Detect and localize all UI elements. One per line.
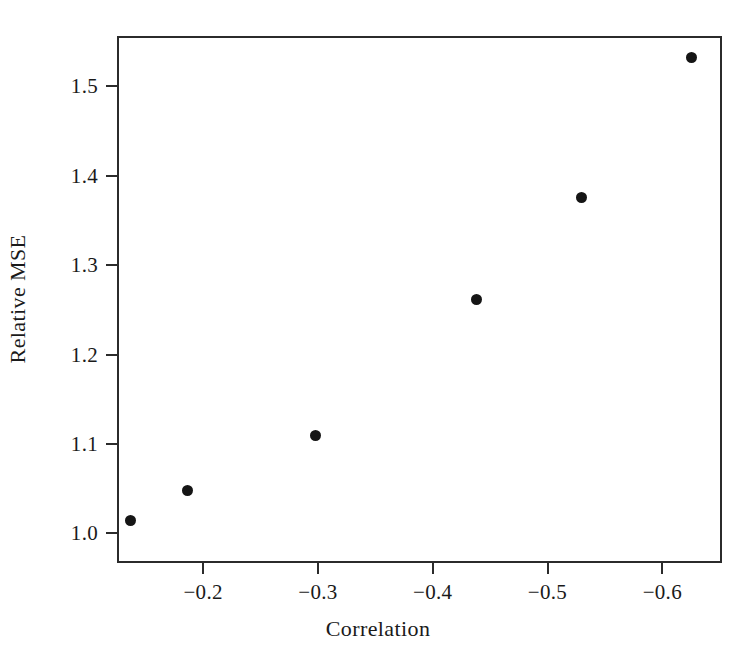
y-axis-title: Relative MSE xyxy=(5,235,31,364)
y-tick-label: 1.5 xyxy=(71,74,98,99)
scatter-plot-figure: −0.2−0.3−0.4−0.5−0.6 1.01.11.21.31.41.5 … xyxy=(0,0,756,671)
y-tick-label: 1.4 xyxy=(71,163,98,188)
x-tick-label: −0.2 xyxy=(183,580,222,605)
y-tick-label: 1.0 xyxy=(71,521,98,546)
plot-area-frame xyxy=(117,36,722,563)
y-tick-label: 1.2 xyxy=(71,342,98,367)
x-tick-label: −0.3 xyxy=(298,580,337,605)
y-tick xyxy=(106,532,117,534)
x-tick xyxy=(202,563,204,574)
y-tick xyxy=(106,85,117,87)
x-tick-label: −0.5 xyxy=(528,580,567,605)
y-tick xyxy=(106,354,117,356)
y-tick xyxy=(106,443,117,445)
y-tick xyxy=(106,175,117,177)
y-tick-label: 1.3 xyxy=(71,253,98,278)
x-tick-label: −0.4 xyxy=(413,580,452,605)
x-tick xyxy=(547,563,549,574)
x-tick-label: −0.6 xyxy=(643,580,682,605)
x-tick xyxy=(317,563,319,574)
x-tick xyxy=(432,563,434,574)
x-tick xyxy=(661,563,663,574)
y-tick-label: 1.1 xyxy=(71,432,98,457)
y-tick xyxy=(106,264,117,266)
x-axis-title: Correlation xyxy=(0,616,756,642)
